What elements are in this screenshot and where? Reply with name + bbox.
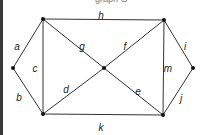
- edge-label-g: g: [79, 41, 85, 52]
- edge-i: [164, 20, 193, 68]
- edge-label-i: i: [184, 41, 187, 52]
- vertex-v_l: [11, 66, 15, 70]
- graph-diagram: abchgfdekmij: [0, 0, 203, 135]
- edge-f: [104, 20, 164, 68]
- edge-g: [43, 19, 104, 68]
- edge-label-k: k: [99, 122, 105, 133]
- vertex-v_r: [191, 66, 195, 70]
- edge-label-m: m: [164, 63, 172, 74]
- edge-label-c: c: [33, 63, 38, 74]
- edge-label-h: h: [98, 10, 104, 21]
- vertex-v_tr: [162, 18, 166, 22]
- vertex-v_tl: [41, 17, 45, 21]
- vertex-v_c: [102, 66, 106, 70]
- edge-d: [43, 68, 104, 114]
- edge-e: [104, 68, 163, 115]
- edge-label-b: b: [16, 92, 22, 103]
- vertex-v_br: [161, 113, 165, 117]
- edge-label-e: e: [135, 86, 141, 97]
- edge-j: [163, 68, 193, 115]
- edge-label-d: d: [63, 84, 69, 95]
- edge-label-j: j: [178, 93, 183, 104]
- edge-label-a: a: [14, 41, 20, 52]
- vertex-v_bl: [41, 112, 45, 116]
- edge-k: [43, 114, 163, 115]
